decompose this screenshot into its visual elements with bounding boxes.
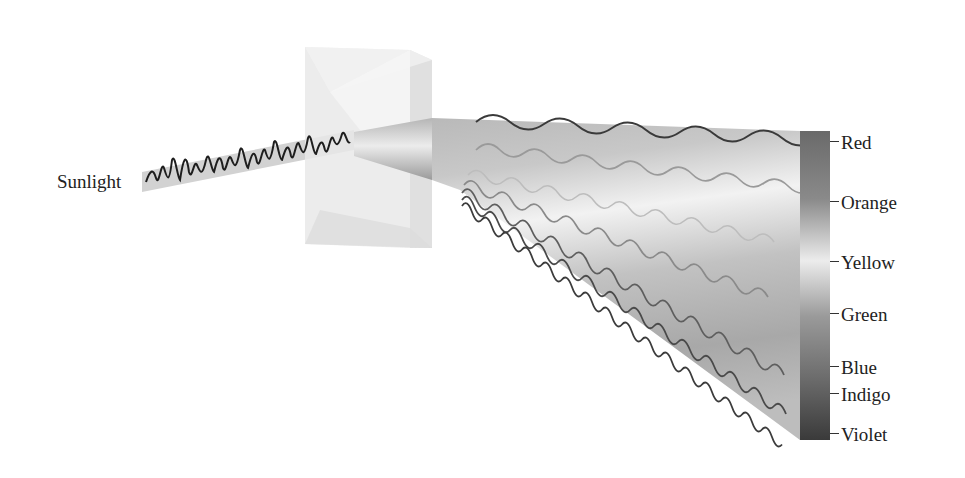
- tick-indigo: [830, 393, 839, 394]
- tick-orange: [830, 201, 839, 202]
- spectrum-color-bar: [800, 131, 830, 440]
- sunlight-label: Sunlight: [57, 172, 121, 191]
- prism-dispersion-diagram: [0, 0, 965, 478]
- label-red: Red: [841, 133, 872, 152]
- tick-green: [830, 313, 839, 314]
- label-yellow: Yellow: [841, 253, 895, 272]
- tick-blue: [830, 366, 839, 367]
- label-blue: Blue: [841, 358, 877, 377]
- label-indigo: Indigo: [841, 385, 891, 404]
- tick-violet: [830, 433, 839, 434]
- label-orange: Orange: [841, 193, 897, 212]
- tick-yellow: [830, 261, 839, 262]
- label-violet: Violet: [841, 425, 887, 444]
- tick-red: [830, 141, 839, 142]
- label-green: Green: [841, 305, 887, 324]
